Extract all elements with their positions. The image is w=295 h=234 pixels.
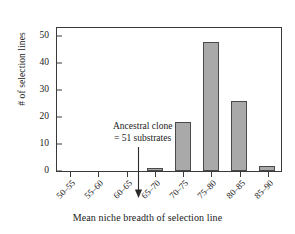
bar[interactable] <box>147 168 163 171</box>
x-tick-cell: 55–60 <box>84 172 112 178</box>
y-tick-label: 0 <box>44 164 49 174</box>
bar-cell <box>225 28 253 171</box>
x-tick-cell: 80–85 <box>226 172 254 178</box>
x-tick-label: 50–55 <box>55 178 78 201</box>
x-tick-mark <box>70 172 71 177</box>
x-tick-label: 55–60 <box>83 178 106 201</box>
x-tick-label: 80–85 <box>224 178 247 201</box>
y-tick-label: 10 <box>40 137 50 147</box>
x-tick-mark <box>155 172 156 177</box>
x-tick-mark <box>268 172 269 177</box>
y-tick-label: 40 <box>40 56 50 66</box>
y-tick-label: 50 <box>40 29 50 39</box>
bar[interactable] <box>259 166 275 171</box>
x-axis-ticks: 50–55 55–60 60–65 65–70 70–75 75–80 80–8… <box>56 172 282 178</box>
bar-series <box>57 28 281 171</box>
bar-cell <box>141 28 169 171</box>
bar[interactable] <box>231 101 247 171</box>
x-tick-label: 85–90 <box>252 178 275 201</box>
x-tick-cell: 75–80 <box>197 172 225 178</box>
histogram-figure: # of selection lines 0 10 20 30 40 50 <box>0 0 295 234</box>
annotation-line-1: Ancestral clone <box>113 121 233 133</box>
y-tick-label: 30 <box>40 83 50 93</box>
x-tick-label: 70–75 <box>168 178 191 201</box>
x-tick-label: 60–65 <box>111 178 134 201</box>
ancestral-clone-annotation: Ancestral clone = 51 substrates <box>113 121 233 144</box>
bar-cell <box>253 28 281 171</box>
plot-area: 0 10 20 30 40 50 <box>56 27 282 172</box>
x-tick-label: 75–80 <box>196 178 219 201</box>
y-axis-title: # of selection lines <box>17 5 27 133</box>
x-tick-mark <box>240 172 241 177</box>
bar-cell <box>85 28 113 171</box>
x-tick-cell: 65–70 <box>141 172 169 178</box>
x-tick-mark <box>98 172 99 177</box>
y-tick-label: 20 <box>40 110 50 120</box>
annotation-line-2: = 51 substrates <box>113 133 233 145</box>
x-tick-cell: 50–55 <box>56 172 84 178</box>
bar-cell <box>169 28 197 171</box>
bar[interactable] <box>203 42 219 172</box>
x-tick-mark <box>183 172 184 177</box>
x-tick-mark <box>127 172 128 177</box>
x-tick-cell: 60–65 <box>113 172 141 178</box>
x-tick-cell: 70–75 <box>169 172 197 178</box>
bar-cell <box>197 28 225 171</box>
x-tick-mark <box>211 172 212 177</box>
x-tick-cell: 85–90 <box>254 172 282 178</box>
x-axis-title: Mean niche breadth of selection line <box>0 212 295 223</box>
bar-cell <box>57 28 85 171</box>
